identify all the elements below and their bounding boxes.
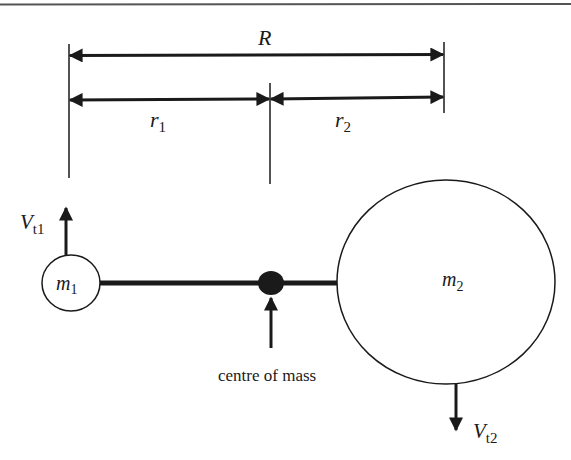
dimension-arrow-r2 (271, 97, 443, 99)
label-r2: r2 (335, 107, 351, 135)
top-rule (0, 4, 571, 5)
dimension-arrow-r1 (70, 99, 269, 100)
centre-of-mass-dot (258, 271, 284, 295)
dimension-arrow-R (70, 55, 443, 56)
label-R: R (257, 25, 272, 50)
centre-of-mass-label: centre of mass (218, 366, 316, 385)
label-vt2: Vt2 (473, 419, 498, 446)
two-body-diagram: R r1 r2 m1 m2 centre of mass Vt1 Vt2 (0, 0, 571, 460)
label-vt1: Vt1 (20, 210, 45, 237)
label-r1: r1 (150, 107, 166, 135)
